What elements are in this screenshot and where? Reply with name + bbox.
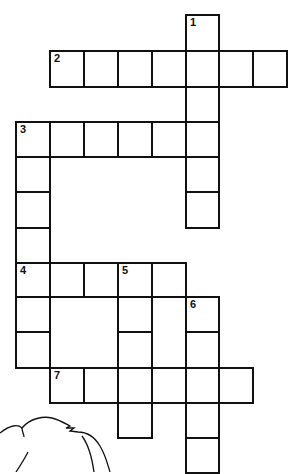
- animal-drawing-icon: [0, 0, 300, 472]
